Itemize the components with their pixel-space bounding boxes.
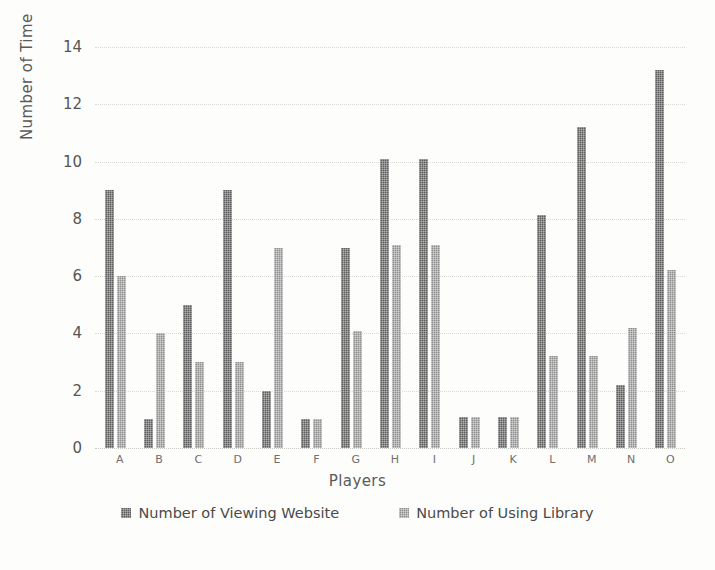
- y-tick-label: 8: [22, 210, 82, 228]
- legend-item-1[interactable]: Number of Using Library: [399, 505, 593, 521]
- plot-area: ABCDEFGHIJKLMNO: [95, 47, 685, 448]
- bar-M-series1[interactable]: [589, 356, 598, 448]
- legend-label: Number of Using Library: [416, 505, 593, 521]
- bar-B-series0[interactable]: [144, 419, 153, 448]
- bar-D-series1[interactable]: [235, 362, 244, 448]
- x-tick-label-M: M: [577, 453, 607, 466]
- bar-E-series1[interactable]: [274, 248, 283, 449]
- y-tick-label: 2: [22, 382, 82, 400]
- y-tick-label: 14: [22, 38, 82, 56]
- bar-I-series1[interactable]: [431, 245, 440, 448]
- y-axis-tick-labels: 02468101214: [20, 47, 82, 448]
- bar-L-series0[interactable]: [537, 215, 546, 448]
- x-tick-label-F: F: [301, 453, 331, 466]
- bar-C-series1[interactable]: [195, 362, 204, 448]
- chart-legend: Number of Viewing WebsiteNumber of Using…: [0, 505, 715, 521]
- bar-F-series1[interactable]: [313, 419, 322, 448]
- bar-H-series0[interactable]: [380, 159, 389, 448]
- y-tick-label: 0: [22, 439, 82, 457]
- bar-O-series1[interactable]: [667, 270, 676, 448]
- y-tick-label: 12: [22, 95, 82, 113]
- x-tick-label-H: H: [380, 453, 410, 466]
- gridline-10: [95, 162, 685, 163]
- bar-chart: Number of Time 02468101214 ABCDEFGHIJKLM…: [0, 0, 715, 570]
- y-tick-label: 4: [22, 324, 82, 342]
- bar-H-series1[interactable]: [392, 245, 401, 448]
- bar-A-series1[interactable]: [117, 276, 126, 448]
- bar-O-series0[interactable]: [655, 70, 664, 448]
- gridline-8: [95, 219, 685, 220]
- x-tick-label-J: J: [459, 453, 489, 466]
- x-tick-label-A: A: [105, 453, 135, 466]
- x-tick-label-B: B: [144, 453, 174, 466]
- bar-J-series1[interactable]: [471, 417, 480, 449]
- x-tick-label-K: K: [498, 453, 528, 466]
- bar-A-series0[interactable]: [105, 190, 114, 448]
- x-tick-label-I: I: [419, 453, 449, 466]
- legend-label: Number of Viewing Website: [138, 505, 339, 521]
- x-axis-title: Players: [0, 472, 715, 490]
- x-tick-label-O: O: [655, 453, 685, 466]
- bar-G-series1[interactable]: [353, 331, 362, 448]
- bar-N-series1[interactable]: [628, 328, 637, 448]
- bar-F-series0[interactable]: [301, 419, 310, 448]
- bar-L-series1[interactable]: [549, 356, 558, 448]
- gridline-14: [95, 47, 685, 48]
- x-tick-label-G: G: [341, 453, 371, 466]
- bar-K-series0[interactable]: [498, 417, 507, 449]
- legend-item-0[interactable]: Number of Viewing Website: [121, 505, 339, 521]
- x-tick-label-C: C: [183, 453, 213, 466]
- bar-C-series0[interactable]: [183, 305, 192, 448]
- legend-swatch-icon: [399, 508, 409, 518]
- legend-swatch-icon: [121, 508, 131, 518]
- bar-I-series0[interactable]: [419, 159, 428, 448]
- y-tick-label: 10: [22, 153, 82, 171]
- bar-N-series0[interactable]: [616, 385, 625, 448]
- gridline-12: [95, 104, 685, 105]
- y-tick-label: 6: [22, 267, 82, 285]
- bar-M-series0[interactable]: [577, 127, 586, 448]
- bar-D-series0[interactable]: [223, 190, 232, 448]
- x-tick-label-E: E: [262, 453, 292, 466]
- x-tick-label-L: L: [537, 453, 567, 466]
- bar-G-series0[interactable]: [341, 248, 350, 449]
- gridline-6: [95, 276, 685, 277]
- bar-K-series1[interactable]: [510, 417, 519, 449]
- bar-B-series1[interactable]: [156, 333, 165, 448]
- x-tick-label-D: D: [223, 453, 253, 466]
- bar-E-series0[interactable]: [262, 391, 271, 448]
- x-tick-label-N: N: [616, 453, 646, 466]
- bar-J-series0[interactable]: [459, 417, 468, 449]
- gridline-0: [95, 448, 685, 449]
